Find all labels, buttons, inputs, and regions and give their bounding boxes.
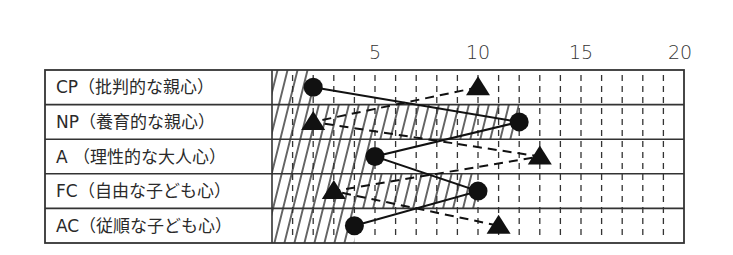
row-label: CP（批判的な親心） xyxy=(56,77,214,97)
row-label: AC（従順な子ども心） xyxy=(56,216,232,236)
circle-marker xyxy=(366,147,385,166)
x-tick-label: 15 xyxy=(569,41,593,63)
row-label: NP（養育的な親心） xyxy=(56,112,215,132)
egogram-chart: 5101520 CP（批判的な親心）NP（養育的な親心）A （理性的な大人心）F… xyxy=(0,0,733,255)
row-labels: CP（批判的な親心）NP（養育的な親心）A （理性的な大人心）FC（自由な子ども… xyxy=(56,77,232,235)
circle-marker xyxy=(510,112,529,131)
x-tick-label: 5 xyxy=(369,41,381,63)
triangle-marker xyxy=(466,76,490,95)
circle-marker xyxy=(345,216,364,235)
hatched-bar xyxy=(272,208,354,243)
row-label: A （理性的な大人心） xyxy=(56,147,226,167)
x-tick-label: 10 xyxy=(466,41,490,63)
hatched-bar xyxy=(272,139,375,174)
circle-marker xyxy=(469,182,488,201)
circle-marker xyxy=(304,78,323,97)
triangle-marker xyxy=(528,146,552,165)
x-axis-tick-labels: 5101520 xyxy=(369,41,692,63)
x-tick-label: 20 xyxy=(668,41,692,63)
row-label: FC（自由な子ども心） xyxy=(56,181,231,201)
